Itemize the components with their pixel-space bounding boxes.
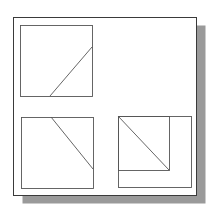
diagram-canvas bbox=[0, 0, 215, 212]
